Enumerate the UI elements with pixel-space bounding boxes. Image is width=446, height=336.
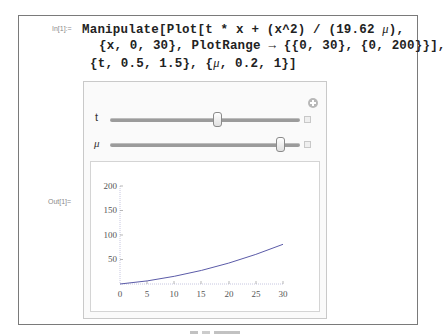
svg-text:25: 25 [252,289,262,299]
svg-text:15: 15 [197,289,207,299]
plot-curve [120,244,283,284]
x-tick-labels: 0 5 10 15 20 25 30 [118,289,288,299]
svg-text:100: 100 [104,230,118,240]
svg-text:0: 0 [118,289,123,299]
y-ticks [120,186,123,260]
svg-text:30: 30 [279,289,289,299]
svg-text:50: 50 [108,254,118,264]
svg-text:200: 200 [104,181,118,191]
svg-text:10: 10 [170,289,180,299]
svg-text:150: 150 [104,205,118,215]
x-ticks [147,281,283,284]
svg-text:5: 5 [145,289,150,299]
svg-text:20: 20 [225,289,235,299]
figure-caption-clipped [185,331,245,336]
y-tick-labels: 50 100 150 200 [104,181,118,264]
